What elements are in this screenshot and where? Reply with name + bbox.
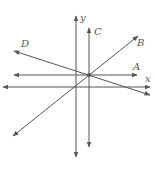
lines-svg <box>0 0 159 170</box>
coordinate-diagram: y C D B A x <box>0 0 159 170</box>
intersection-point <box>87 73 91 77</box>
line-D <box>14 51 150 95</box>
label-x: x <box>145 74 151 84</box>
label-B: B <box>137 38 144 48</box>
label-A: A <box>133 62 140 72</box>
label-y: y <box>80 13 86 23</box>
label-C: C <box>94 27 102 37</box>
label-D: D <box>21 39 29 49</box>
